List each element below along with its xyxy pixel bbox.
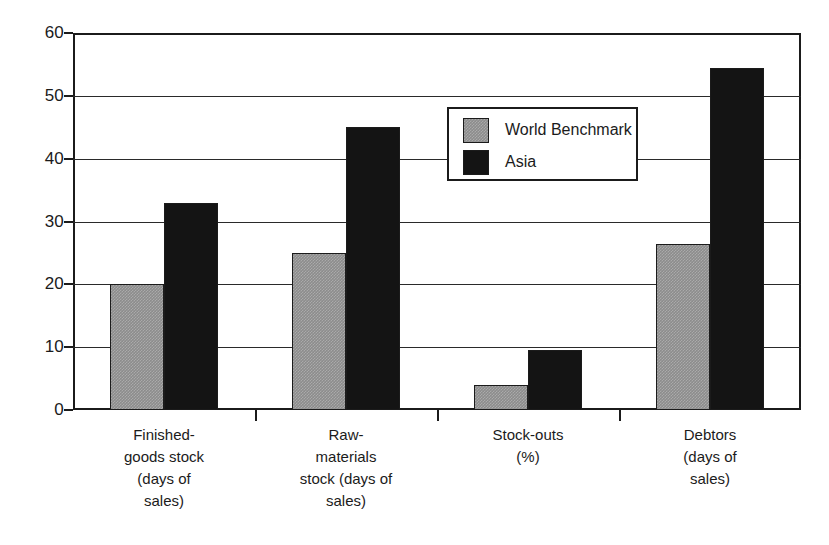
y-axis-tick-label: 20 xyxy=(18,275,64,292)
bar xyxy=(346,127,400,410)
plot-border-top xyxy=(73,33,801,35)
legend-item[interactable]: World Benchmark xyxy=(463,117,632,143)
x-axis-category-label-line: (days of xyxy=(619,446,801,468)
x-axis-category-label-line: (days of xyxy=(73,468,255,490)
x-axis-tick-mark xyxy=(437,410,439,421)
x-axis-category-label-line: sales) xyxy=(255,490,437,512)
legend-item[interactable]: Asia xyxy=(463,149,536,175)
x-axis-category-label-line: materials xyxy=(255,446,437,468)
bar-chart: 0102030405060 World BenchmarkAsia Finish… xyxy=(0,0,829,545)
x-axis-category-label-line: (%) xyxy=(437,446,619,468)
y-axis-tick-mark xyxy=(64,346,73,348)
x-axis-tick-mark xyxy=(255,410,257,421)
x-axis-category-label-line: Stock-outs xyxy=(437,424,619,446)
bar xyxy=(110,284,164,410)
y-axis-tick-label: 40 xyxy=(18,150,64,167)
x-axis-category-label-line: Raw- xyxy=(255,424,437,446)
x-axis-category-label: Stock-outs(%) xyxy=(437,424,619,468)
bar xyxy=(656,244,710,411)
x-axis-tick-mark xyxy=(619,410,621,421)
y-axis-tick-mark xyxy=(64,95,73,97)
chart-legend: World BenchmarkAsia xyxy=(447,107,638,181)
legend-item-label: Asia xyxy=(505,154,536,170)
x-axis-category-label: Raw-materialsstock (days ofsales) xyxy=(255,424,437,512)
x-axis-category-labels: Finished-goods stock(days ofsales)Raw-ma… xyxy=(73,424,801,534)
gridline xyxy=(73,96,801,97)
x-axis-category-label-line: sales) xyxy=(619,468,801,490)
legend-item-label: World Benchmark xyxy=(505,122,632,138)
y-axis-tick-label: 0 xyxy=(18,401,64,418)
bar xyxy=(164,203,218,410)
y-axis-tick-label: 60 xyxy=(18,24,64,41)
x-axis-category-label: Finished-goods stock(days ofsales) xyxy=(73,424,255,512)
y-axis-tick-mark xyxy=(64,158,73,160)
plot-area xyxy=(73,33,801,410)
y-axis-tick-label: 50 xyxy=(18,87,64,104)
x-axis-category-label-line: Debtors xyxy=(619,424,801,446)
bar xyxy=(474,385,528,410)
x-axis-category-label-line: stock (days of xyxy=(255,468,437,490)
bar xyxy=(528,350,582,410)
x-axis-category-label-line: Finished- xyxy=(73,424,255,446)
y-axis-tick-label: 30 xyxy=(18,213,64,230)
x-axis-category-label: Debtors(days ofsales) xyxy=(619,424,801,490)
bar xyxy=(292,253,346,410)
legend-swatch-icon xyxy=(463,118,489,143)
y-axis-tick-label: 10 xyxy=(18,338,64,355)
y-axis-tick-labels: 0102030405060 xyxy=(8,0,64,545)
bar xyxy=(710,68,764,410)
y-axis-tick-mark xyxy=(64,283,73,285)
legend-swatch-icon xyxy=(463,150,489,175)
x-axis-category-label-line: sales) xyxy=(73,490,255,512)
gridline xyxy=(73,159,801,160)
y-axis-tick-mark xyxy=(64,221,73,223)
x-axis-category-label-line: goods stock xyxy=(73,446,255,468)
y-axis-tick-mark xyxy=(64,409,73,411)
y-axis-tick-mark xyxy=(64,32,73,34)
